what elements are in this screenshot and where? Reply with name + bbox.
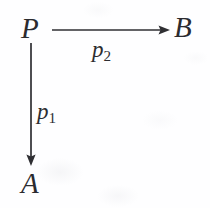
edge-label-p1: p1	[37, 100, 56, 125]
edge-label-p1-subscript: 1	[49, 109, 57, 126]
diagram-node-a: A	[21, 169, 39, 198]
arrow-p1	[26, 43, 35, 166]
edge-label-p2: p2	[92, 38, 111, 63]
diagram-node-b: B	[174, 13, 192, 42]
edge-label-p1-base: p	[37, 99, 49, 124]
diagram-canvas: P B A p2 p1	[0, 0, 210, 208]
edge-label-p2-subscript: 2	[104, 47, 112, 64]
arrow-p2	[52, 25, 170, 34]
edge-label-p2-base: p	[92, 37, 104, 62]
diagram-node-p: P	[21, 14, 39, 43]
